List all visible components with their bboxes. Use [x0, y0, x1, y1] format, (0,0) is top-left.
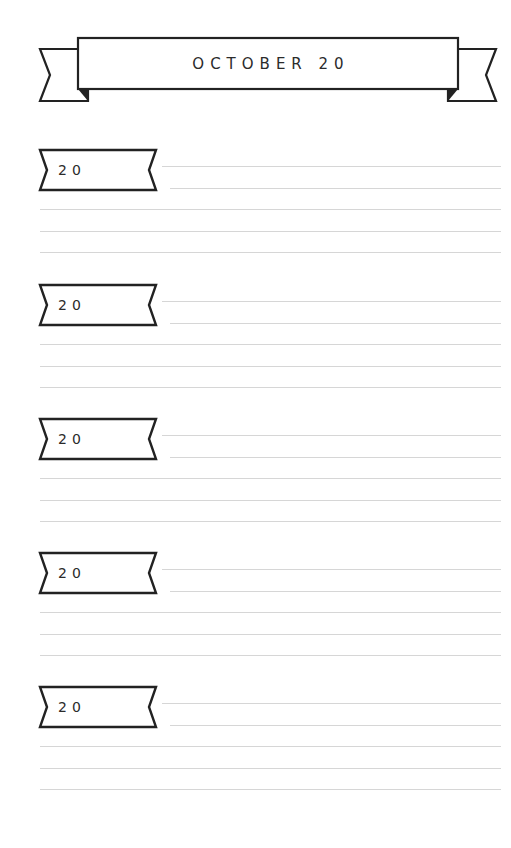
writing-line[interactable] [162, 569, 501, 570]
writing-line[interactable] [40, 209, 501, 210]
year-label: 20 [58, 148, 86, 192]
writing-line[interactable] [170, 725, 501, 726]
writing-line[interactable] [40, 252, 501, 253]
writing-line[interactable] [40, 746, 501, 747]
year-label: 20 [58, 283, 86, 327]
writing-line[interactable] [40, 655, 501, 656]
year-entry: 20 [0, 148, 511, 268]
writing-line[interactable] [40, 789, 501, 790]
writing-line[interactable] [162, 435, 501, 436]
year-tag: 20 [38, 551, 160, 595]
header-banner: OCTOBER 20 [0, 0, 511, 120]
writing-line[interactable] [40, 500, 501, 501]
writing-line[interactable] [170, 457, 501, 458]
year-label: 20 [58, 417, 86, 461]
writing-line[interactable] [40, 366, 501, 367]
ribbon-tag-icon [38, 417, 160, 461]
ribbon-tag-icon [38, 283, 160, 327]
year-tag: 20 [38, 283, 160, 327]
year-tag: 20 [38, 685, 160, 729]
writing-line[interactable] [40, 387, 501, 388]
writing-line[interactable] [170, 188, 501, 189]
writing-line[interactable] [162, 703, 501, 704]
ribbon-tag-icon [38, 685, 160, 729]
writing-line[interactable] [40, 768, 501, 769]
ribbon-tag-icon [38, 551, 160, 595]
writing-line[interactable] [40, 612, 501, 613]
page-title: OCTOBER 20 [78, 38, 458, 89]
writing-line[interactable] [40, 634, 501, 635]
year-entry: 20 [0, 417, 511, 537]
writing-line[interactable] [162, 166, 501, 167]
writing-line[interactable] [162, 301, 501, 302]
writing-line[interactable] [40, 521, 501, 522]
writing-line[interactable] [40, 478, 501, 479]
year-entry: 20 [0, 283, 511, 403]
writing-line[interactable] [40, 231, 501, 232]
writing-line[interactable] [40, 344, 501, 345]
writing-line[interactable] [170, 591, 501, 592]
ribbon-tag-icon [38, 148, 160, 192]
year-tag: 20 [38, 417, 160, 461]
year-tag: 20 [38, 148, 160, 192]
year-label: 20 [58, 685, 86, 729]
writing-line[interactable] [170, 323, 501, 324]
year-entry: 20 [0, 685, 511, 805]
year-entry: 20 [0, 551, 511, 671]
year-label: 20 [58, 551, 86, 595]
